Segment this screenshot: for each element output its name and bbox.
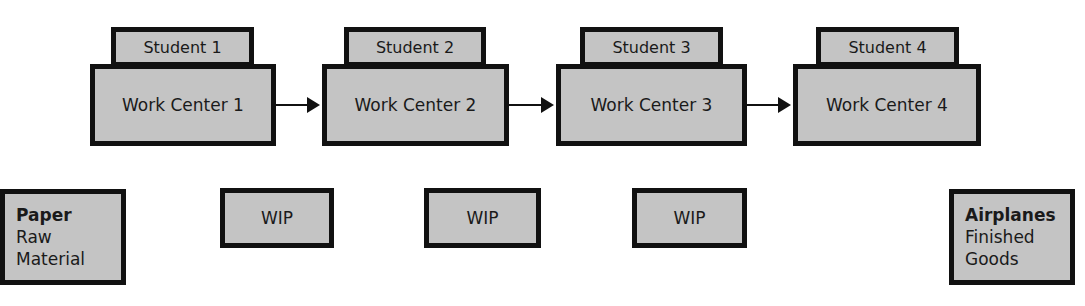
work-center-3-label: Work Center 3 bbox=[591, 95, 713, 115]
raw-material-title: Paper bbox=[16, 204, 72, 226]
work-center-2-label: Work Center 2 bbox=[355, 95, 477, 115]
student-1-box: Student 1 bbox=[111, 27, 254, 67]
work-center-4-label: Work Center 4 bbox=[826, 95, 948, 115]
wip-label-2: WIP bbox=[466, 208, 498, 228]
wip-box-1: WIP bbox=[220, 188, 334, 248]
finished-goods-line1: Finished bbox=[965, 226, 1035, 248]
raw-material-box: Paper Raw Material bbox=[0, 189, 126, 285]
wip-box-3: WIP bbox=[632, 188, 747, 248]
raw-material-line1: Raw bbox=[16, 226, 52, 248]
work-center-4: Work Center 4 bbox=[793, 64, 981, 146]
work-center-1-label: Work Center 1 bbox=[122, 95, 244, 115]
wip-label-3: WIP bbox=[673, 208, 705, 228]
student-3-label: Student 3 bbox=[612, 38, 690, 57]
wip-box-2: WIP bbox=[424, 188, 541, 248]
work-center-2: Work Center 2 bbox=[322, 64, 509, 146]
arrow-wc3-to-wc4 bbox=[747, 104, 789, 106]
student-3-box: Student 3 bbox=[580, 27, 723, 67]
raw-material-line2: Material bbox=[16, 248, 85, 270]
wip-label-1: WIP bbox=[261, 208, 293, 228]
finished-goods-line2: Goods bbox=[965, 248, 1019, 270]
arrow-wc1-to-wc2 bbox=[276, 104, 318, 106]
student-2-label: Student 2 bbox=[376, 38, 454, 57]
work-center-3: Work Center 3 bbox=[556, 64, 747, 146]
finished-goods-box: Airplanes Finished Goods bbox=[949, 189, 1075, 285]
finished-goods-title: Airplanes bbox=[965, 204, 1056, 226]
student-1-label: Student 1 bbox=[143, 38, 221, 57]
work-center-1: Work Center 1 bbox=[90, 64, 276, 146]
student-2-box: Student 2 bbox=[344, 27, 486, 67]
student-4-label: Student 4 bbox=[848, 38, 926, 57]
student-4-box: Student 4 bbox=[816, 27, 959, 67]
arrow-wc2-to-wc3 bbox=[509, 104, 552, 106]
